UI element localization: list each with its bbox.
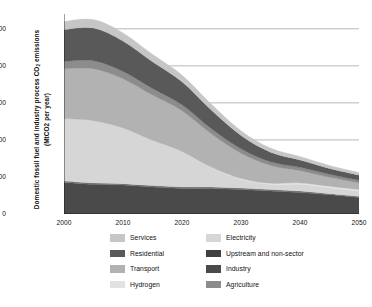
y-axis-tick-label: 100 xyxy=(0,173,6,180)
legend-item-upstream-and-non-sector[interactable]: Upstream and non-sector xyxy=(206,250,356,258)
y-axis-tick-label: 0 xyxy=(0,210,6,217)
area-series-group xyxy=(64,19,359,214)
legend-label: Services xyxy=(130,234,156,241)
x-axis-tick-label: 2000 xyxy=(49,219,79,226)
legend-label: Industry xyxy=(226,265,251,272)
x-axis-tick-label: 2020 xyxy=(167,219,197,226)
legend-swatch-icon xyxy=(206,250,221,258)
legend-label: Agriculture xyxy=(226,281,259,288)
y-axis-tick-label: 300 xyxy=(0,99,6,106)
legend-swatch-icon xyxy=(206,234,221,242)
legend-label: Electricity xyxy=(226,234,256,241)
legend-row: ResidentialUpstream and non-sector xyxy=(110,246,360,262)
y-axis-title: Domestic fossil fuel and industry proces… xyxy=(32,17,51,222)
legend-row: HydrogenAgriculture xyxy=(110,277,360,293)
legend-item-agriculture[interactable]: Agriculture xyxy=(206,281,356,289)
x-axis-tick-label: 2010 xyxy=(108,219,138,226)
legend-label: Transport xyxy=(130,265,159,272)
legend-item-transport[interactable]: Transport xyxy=(110,265,206,273)
legend-item-industry[interactable]: Industry xyxy=(206,265,356,273)
chart-legend: ServicesElectricityResidentialUpstream a… xyxy=(110,230,360,292)
x-axis-tick-label: 2050 xyxy=(344,219,372,226)
legend-item-hydrogen[interactable]: Hydrogen xyxy=(110,281,206,289)
y-axis-title-line1: Domestic fossil fuel and industry proces… xyxy=(33,67,40,210)
legend-swatch-icon xyxy=(110,281,125,289)
legend-row: TransportIndustry xyxy=(110,261,360,277)
legend-label: Upstream and non-sector xyxy=(226,250,304,257)
legend-item-services[interactable]: Services xyxy=(110,234,206,242)
y-axis-title-line1-end: emissions xyxy=(33,30,40,64)
chart-figure: Domestic fossil fuel and industry proces… xyxy=(0,0,372,307)
legend-swatch-icon xyxy=(110,250,125,258)
y-axis-title-subscript: 2 xyxy=(36,64,41,67)
legend-swatch-icon xyxy=(206,265,221,273)
legend-swatch-icon xyxy=(110,234,125,242)
legend-row: ServicesElectricity xyxy=(110,230,360,246)
x-axis-tick-label: 2030 xyxy=(226,219,256,226)
legend-swatch-icon xyxy=(206,281,221,289)
stacked-area-plot xyxy=(64,14,359,214)
legend-item-residential[interactable]: Residential xyxy=(110,250,206,258)
legend-swatch-icon xyxy=(110,265,125,273)
x-axis-tick-label: 2040 xyxy=(285,219,315,226)
legend-label: Residential xyxy=(130,250,164,257)
y-axis-tick-label: 500 xyxy=(0,25,6,32)
y-axis-tick-label: 400 xyxy=(0,62,6,69)
legend-label: Hydrogen xyxy=(130,281,160,288)
plot-area xyxy=(64,14,359,214)
y-axis-tick-label: 200 xyxy=(0,136,6,143)
legend-item-electricity[interactable]: Electricity xyxy=(206,234,356,242)
y-axis-title-line2: (MtCO2 per year) xyxy=(43,93,50,146)
